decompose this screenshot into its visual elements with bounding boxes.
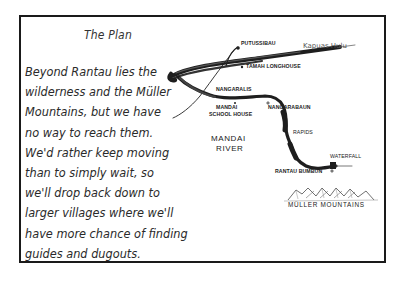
putussibau-dot	[236, 46, 240, 50]
label-nangaraalis: NANGARALIS	[216, 87, 252, 92]
label-mandai-river-2: RIVER	[216, 145, 243, 153]
rantau-bumbun-dot	[331, 170, 333, 172]
label-tamah-longhouse: TAMAH LONGHOUSE	[246, 64, 301, 69]
label-waterfall: WATERFALL	[330, 154, 361, 159]
label-nanga-rabaun: NANGARABAUN	[268, 105, 311, 110]
label-mandai-river-1: MANDAI	[211, 135, 246, 143]
waterfall-marker	[330, 162, 336, 169]
label-putussibau: PUTUSSIBAU	[241, 41, 276, 46]
label-mandai-school-2: SCHOOL HOUSE	[209, 112, 252, 117]
label-rapids: RAPIDS	[293, 130, 313, 135]
label-muller-mountains: MÜLLER MOUNTAINS	[288, 202, 365, 208]
tamah-longhouse-dot	[241, 66, 243, 68]
label-rantau-bumbun: RANTAU BUMBUN	[275, 169, 322, 174]
label-mandai-school-1: MANDAI	[216, 105, 237, 110]
river-map	[0, 0, 409, 282]
label-kapuas-hulu: Kapuas Hulu	[303, 43, 347, 50]
mountains-icon	[284, 188, 378, 201]
